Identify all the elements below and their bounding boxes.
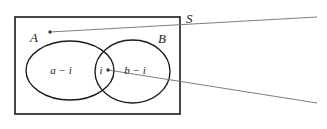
region-i-label: i [99,64,102,76]
callout-dot-set-a [48,30,51,33]
universal-set-rectangle [15,17,180,114]
venn-diagram-canvas: S A B a − i i b − i [0,0,327,129]
universe-label: S [186,11,193,26]
region-a-minus-i-label: a − i [50,64,71,76]
callout-line-top [50,17,317,32]
callout-dot-intersection [106,68,109,71]
venn-diagram-figure: S A B a − i i b − i [0,0,327,129]
set-b-label: B [158,31,166,46]
set-a-label: A [29,30,38,45]
region-b-minus-i-label: b − i [124,64,145,76]
